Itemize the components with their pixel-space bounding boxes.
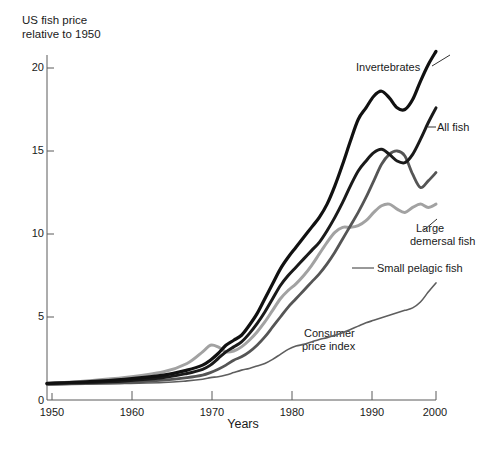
- series-line-invertebrates: [47, 51, 436, 383]
- data-series-group: [47, 51, 436, 385]
- series-line-all-fish: [47, 108, 436, 384]
- chart-canvas: [0, 0, 486, 456]
- series-line-small-pelagic-fish: [47, 151, 436, 384]
